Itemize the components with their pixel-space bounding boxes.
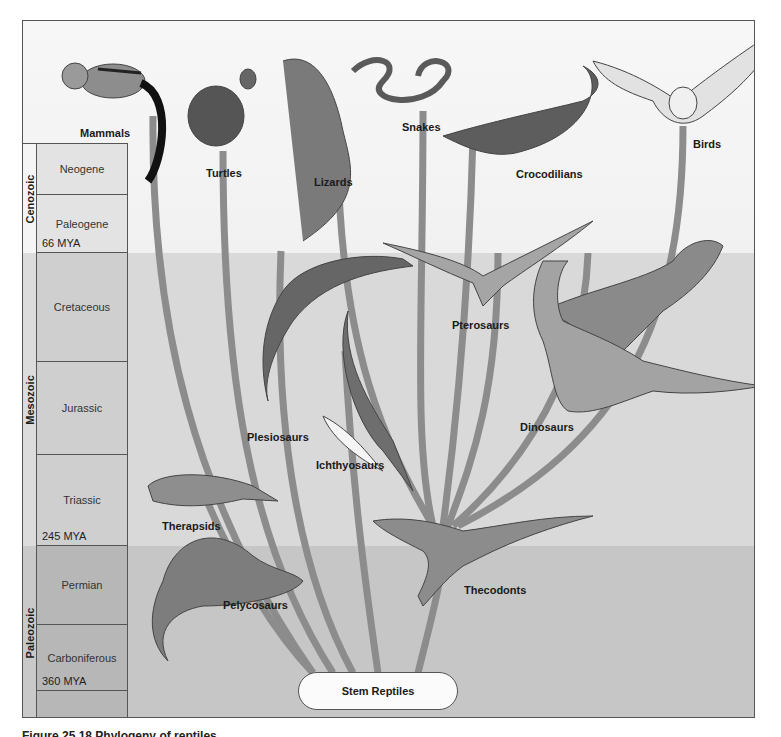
label-pterosaurs: Pterosaurs bbox=[452, 319, 509, 331]
boundary-label: 245 MYA bbox=[42, 530, 86, 542]
boundary-label: 360 MYA bbox=[42, 675, 86, 687]
era-label: Paleozoic bbox=[24, 607, 36, 658]
stem-reptiles-node: Stem Reptiles bbox=[298, 672, 458, 710]
label-pelycosaurs: Pelycosaurs bbox=[223, 599, 288, 611]
period-label: Jurassic bbox=[37, 402, 127, 414]
label-plesiosaurs: Plesiosaurs bbox=[247, 431, 309, 443]
period-jurassic: Jurassic bbox=[37, 362, 128, 455]
period-label: Cretaceous bbox=[37, 301, 127, 313]
period-carboniferous: Carboniferous 360 MYA bbox=[37, 625, 128, 691]
period-label: Carboniferous bbox=[37, 652, 127, 664]
plesiosaur-silhouette bbox=[263, 256, 413, 401]
label-snakes: Snakes bbox=[402, 121, 441, 133]
label-crocodilians: Crocodilians bbox=[516, 168, 583, 180]
period-cretaceous: Cretaceous bbox=[37, 253, 128, 362]
era-label: Mesozoic bbox=[24, 375, 36, 425]
era-paleozoic: Paleozoic bbox=[23, 546, 37, 718]
era-label: Cenozoic bbox=[24, 174, 36, 223]
period-paleogene: Paleogene 66 MYA bbox=[37, 195, 128, 253]
label-mammals: Mammals bbox=[80, 127, 130, 139]
crocodilian-silhouette bbox=[443, 66, 598, 154]
label-lizards: Lizards bbox=[314, 176, 353, 188]
figure-caption: Figure 25.18 Phylogeny of reptiles bbox=[22, 728, 217, 737]
label-thecodonts: Thecodonts bbox=[464, 584, 526, 596]
era-mesozoic: Mesozoic bbox=[23, 253, 37, 546]
branch-snakes bbox=[421, 111, 434, 526]
era-cenozoic: Cenozoic bbox=[23, 143, 37, 253]
bird-silhouette bbox=[593, 26, 755, 123]
label-birds: Birds bbox=[693, 138, 721, 150]
diagram-frame: Cenozoic Mesozoic Paleozoic Neogene Pale… bbox=[22, 20, 755, 718]
period-unlabeled bbox=[37, 691, 128, 718]
snake-silhouette bbox=[353, 60, 449, 100]
period-neogene: Neogene bbox=[37, 143, 128, 195]
label-dinosaurs: Dinosaurs bbox=[520, 421, 574, 433]
period-triassic: Triassic 245 MYA bbox=[37, 455, 128, 546]
label-therapsids: Therapsids bbox=[162, 520, 221, 532]
period-label: Paleogene bbox=[37, 218, 127, 230]
period-label: Neogene bbox=[37, 163, 127, 175]
label-turtles: Turtles bbox=[206, 167, 242, 179]
label-stem-reptiles: Stem Reptiles bbox=[342, 685, 415, 697]
turtle-silhouette bbox=[188, 69, 256, 146]
period-label: Permian bbox=[37, 579, 127, 591]
label-ichthyosaurs: Ichthyosaurs bbox=[316, 459, 384, 471]
phylogeny-tree bbox=[23, 21, 755, 718]
period-permian: Permian bbox=[37, 546, 128, 625]
boundary-label: 66 MYA bbox=[42, 237, 80, 249]
period-label: Triassic bbox=[37, 494, 127, 506]
